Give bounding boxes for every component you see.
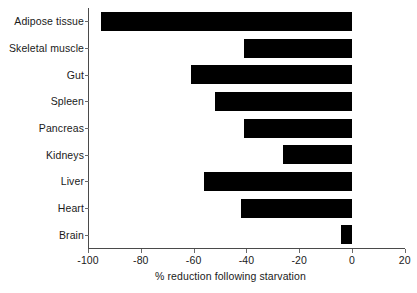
category-label: Skeletal muscle xyxy=(9,42,84,54)
bar xyxy=(283,145,352,164)
bar xyxy=(241,199,352,218)
bar xyxy=(244,119,352,138)
x-axis-tick xyxy=(88,249,89,253)
bar xyxy=(215,92,352,111)
y-axis-tick xyxy=(85,181,89,182)
bar-chart: Adipose tissueSkeletal muscleGutSpleenPa… xyxy=(0,0,417,293)
category-label: Pancreas xyxy=(39,122,84,134)
y-axis-tick xyxy=(85,48,89,49)
y-axis-tick xyxy=(85,155,89,156)
x-axis-title: % reduction following starvation xyxy=(0,270,417,282)
x-axis-tick-label: 20 xyxy=(399,254,411,266)
x-axis-tick-label: -40 xyxy=(239,254,254,266)
category-label: Kidneys xyxy=(46,149,84,161)
y-axis-tick xyxy=(85,21,89,22)
bar xyxy=(341,225,352,244)
x-axis-tick xyxy=(352,249,353,253)
y-axis-tick xyxy=(85,128,89,129)
x-axis-tick xyxy=(299,249,300,253)
x-axis-tick xyxy=(141,249,142,253)
category-label: Liver xyxy=(61,175,84,187)
y-axis-tick xyxy=(85,235,89,236)
y-axis-tick xyxy=(85,208,89,209)
bar xyxy=(101,12,352,31)
x-axis-tick xyxy=(405,249,406,253)
x-axis-tick xyxy=(194,249,195,253)
y-axis-tick xyxy=(85,75,89,76)
category-label: Brain xyxy=(59,229,84,241)
bar xyxy=(191,65,352,84)
x-axis-tick xyxy=(246,249,247,253)
x-axis-tick-label: -60 xyxy=(186,254,201,266)
x-axis-tick-label: -100 xyxy=(77,254,98,266)
category-label: Spleen xyxy=(51,95,84,107)
bar xyxy=(204,172,352,191)
x-axis-tick-label: -20 xyxy=(291,254,306,266)
x-axis-tick-label: 0 xyxy=(349,254,355,266)
category-label: Gut xyxy=(67,69,84,81)
category-label: Adipose tissue xyxy=(14,15,84,27)
y-axis-tick xyxy=(85,101,89,102)
bar xyxy=(244,39,352,58)
x-axis-tick-label: -80 xyxy=(133,254,148,266)
category-label: Heart xyxy=(58,202,84,214)
